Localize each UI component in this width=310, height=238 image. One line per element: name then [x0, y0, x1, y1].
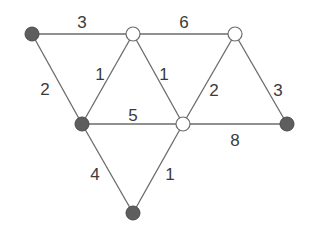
edge-C-F [235, 34, 287, 124]
hollow-node-C [228, 27, 242, 41]
edge-weight-label: 6 [179, 13, 188, 32]
edge-B-E [133, 34, 183, 124]
edge-weight-label: 4 [90, 165, 99, 184]
edge-weight-label: 1 [95, 65, 104, 84]
filled-node-D [75, 117, 89, 131]
edge-weight-label: 3 [273, 81, 282, 100]
edge-weight-label: 8 [230, 131, 239, 150]
edge-D-B [82, 34, 133, 124]
hollow-node-E [176, 117, 190, 131]
filled-node-A [25, 27, 39, 41]
edge-labels-layer: 36211235841 [40, 13, 282, 184]
edge-weight-label: 1 [165, 165, 174, 184]
edges-layer [32, 34, 287, 213]
hollow-node-B [126, 27, 140, 41]
edge-weight-label: 2 [209, 81, 218, 100]
filled-node-G [126, 206, 140, 220]
filled-node-F [280, 117, 294, 131]
edge-A-D [32, 34, 82, 124]
edge-weight-label: 5 [128, 106, 137, 125]
edge-E-C [183, 34, 235, 124]
edge-G-E [133, 124, 183, 213]
edge-weight-label: 3 [77, 13, 86, 32]
edge-weight-label: 2 [40, 80, 49, 99]
edge-weight-label: 1 [159, 65, 168, 84]
weighted-graph: 36211235841 [0, 0, 310, 238]
